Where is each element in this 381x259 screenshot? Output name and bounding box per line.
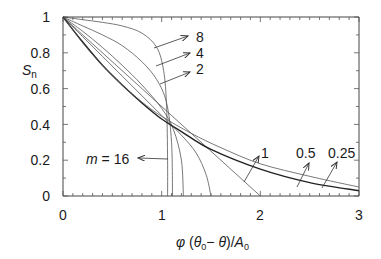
- label-m-2: 2: [196, 61, 204, 77]
- x-tick-0: 0: [59, 207, 67, 223]
- label-m-8: 8: [196, 29, 204, 45]
- curves: [63, 17, 359, 196]
- y-axis-title: Sn: [22, 62, 37, 80]
- arrow-1: [244, 156, 259, 182]
- label-m-0.5: 0.5: [296, 145, 316, 161]
- label-m-4: 4: [196, 45, 204, 61]
- y-tick-0.4: 0.4: [31, 117, 51, 133]
- y-tick-0.6: 0.6: [31, 81, 51, 97]
- curve-m-16: [63, 17, 168, 196]
- chart: 1 0.8 0.6 0.4 0.2 0 0 1 2 3 Sn φ (θ0− θ)…: [0, 0, 381, 259]
- y-tick-1: 1: [42, 9, 50, 25]
- plot-frame: [63, 17, 359, 196]
- arrow-0.5: [297, 163, 309, 187]
- axis-ticks: [63, 17, 359, 196]
- x-tick-1: 1: [158, 207, 166, 223]
- y-tick-0: 0: [42, 188, 50, 204]
- x-axis-title: φ (θ0− θ)/A0: [176, 234, 249, 252]
- annotations: 8 4 2 m = 16 1 0.5 0.25: [86, 29, 355, 188]
- arrow-16: [138, 158, 168, 159]
- arrow-8: [154, 36, 188, 48]
- y-tick-labels: 1 0.8 0.6 0.4 0.2 0: [31, 9, 51, 204]
- x-tick-labels: 0 1 2 3: [59, 207, 363, 223]
- curve-m-2: [63, 17, 211, 196]
- x-tick-2: 2: [256, 207, 264, 223]
- y-tick-0.8: 0.8: [31, 45, 51, 61]
- arrow-0.25: [322, 162, 337, 188]
- label-m-0.25: 0.25: [328, 145, 355, 161]
- label-m-1: 1: [261, 145, 269, 161]
- curve-m-8: [63, 17, 173, 196]
- label-m-16: m = 16: [86, 151, 129, 167]
- y-tick-0.2: 0.2: [31, 152, 51, 168]
- x-tick-3: 3: [355, 207, 363, 223]
- curve-m-1: [63, 17, 260, 196]
